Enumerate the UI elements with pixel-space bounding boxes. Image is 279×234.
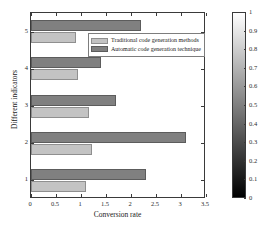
bar-traditional-cat-3 xyxy=(31,107,89,118)
x-tick-mark xyxy=(206,13,207,16)
colorbar-tick-mark xyxy=(244,12,246,13)
y-tick-mark xyxy=(201,106,204,107)
chart-figure: Conversion rate Different indicators Tra… xyxy=(0,0,279,234)
x-tick-mark xyxy=(131,194,132,197)
x-tick-label: 3 xyxy=(178,200,181,208)
y-tick-mark xyxy=(31,143,34,144)
bar-automatic-cat-3 xyxy=(31,95,116,106)
y-tick-mark xyxy=(31,69,34,70)
colorbar-tick-label: 0.1 xyxy=(249,175,257,183)
y-tick-label: 4 xyxy=(20,64,28,72)
bar-automatic-cat-5 xyxy=(31,20,141,31)
legend-label-automatic: Automatic code generation technique xyxy=(111,46,201,53)
legend-item-automatic: Automatic code generation technique xyxy=(91,45,201,53)
colorbar-tick-mark xyxy=(244,198,246,199)
x-tick-mark xyxy=(56,13,57,16)
x-tick-label: 1.5 xyxy=(101,200,109,208)
colorbar-tick-mark xyxy=(244,31,246,32)
y-tick-label: 3 xyxy=(20,101,28,109)
colorbar-tick-mark xyxy=(244,124,246,125)
y-axis-title: Different indicators xyxy=(10,50,19,150)
x-tick-label: 0.5 xyxy=(51,200,59,208)
colorbar-tick-mark xyxy=(244,86,246,87)
x-tick-mark xyxy=(106,194,107,197)
x-tick-mark xyxy=(81,194,82,197)
legend-swatch-traditional xyxy=(91,38,108,44)
colorbar-tick-label: 0.9 xyxy=(249,27,257,35)
y-tick-label: 1 xyxy=(20,175,28,183)
colorbar-tick-label: 1 xyxy=(249,8,252,16)
x-tick-mark xyxy=(156,13,157,16)
y-tick-mark xyxy=(31,180,34,181)
colorbar-tick-mark xyxy=(244,142,246,143)
x-tick-mark xyxy=(181,13,182,16)
colorbar-tick-label: 0.3 xyxy=(249,138,257,146)
colorbar-tick-label: 0.5 xyxy=(249,101,257,109)
colorbar-tick-mark xyxy=(244,49,246,50)
y-tick-mark xyxy=(201,143,204,144)
y-tick-label: 5 xyxy=(20,27,28,35)
x-tick-mark xyxy=(106,13,107,16)
x-tick-label: 1 xyxy=(78,200,81,208)
y-tick-mark xyxy=(31,32,34,33)
colorbar-tick-label: 0 xyxy=(249,194,252,202)
x-tick-label: 0 xyxy=(28,200,31,208)
y-tick-mark xyxy=(201,69,204,70)
x-tick-mark xyxy=(56,194,57,197)
x-tick-mark xyxy=(81,13,82,16)
colorbar-tick-label: 0.4 xyxy=(249,120,257,128)
colorbar-tick-mark xyxy=(244,105,246,106)
colorbar-tick-mark xyxy=(244,161,246,162)
x-tick-label: 2 xyxy=(128,200,131,208)
y-tick-label: 2 xyxy=(20,138,28,146)
colorbar: 00.10.20.30.40.50.60.70.80.91 xyxy=(232,12,246,198)
x-tick-label: 2.5 xyxy=(151,200,159,208)
x-tick-mark xyxy=(206,194,207,197)
legend-label-traditional: Traditional code generation methods xyxy=(111,37,199,44)
legend-item-traditional: Traditional code generation methods xyxy=(91,37,201,45)
x-tick-mark xyxy=(156,194,157,197)
x-tick-label: 3.5 xyxy=(201,200,209,208)
colorbar-tick-label: 0.2 xyxy=(249,157,257,165)
colorbar-tick-label: 0.7 xyxy=(249,64,257,72)
x-tick-mark xyxy=(31,13,32,16)
x-tick-mark xyxy=(131,13,132,16)
x-tick-mark xyxy=(181,194,182,197)
y-tick-mark xyxy=(201,180,204,181)
bar-traditional-cat-2 xyxy=(31,144,92,155)
bar-automatic-cat-4 xyxy=(31,57,101,68)
legend-swatch-automatic xyxy=(91,46,108,52)
colorbar-tick-label: 0.8 xyxy=(249,45,257,53)
colorbar-tick-label: 0.6 xyxy=(249,82,257,90)
x-tick-mark xyxy=(31,194,32,197)
colorbar-tick-mark xyxy=(244,68,246,69)
bar-automatic-cat-2 xyxy=(31,132,186,143)
colorbar-tick-mark xyxy=(244,179,246,180)
legend: Traditional code generation methods Auto… xyxy=(88,33,205,57)
y-tick-mark xyxy=(31,106,34,107)
bar-traditional-cat-5 xyxy=(31,32,76,43)
bar-automatic-cat-1 xyxy=(31,169,146,180)
bar-traditional-cat-4 xyxy=(31,69,78,80)
x-axis-title: Conversion rate xyxy=(30,210,205,219)
bar-traditional-cat-1 xyxy=(31,181,86,192)
